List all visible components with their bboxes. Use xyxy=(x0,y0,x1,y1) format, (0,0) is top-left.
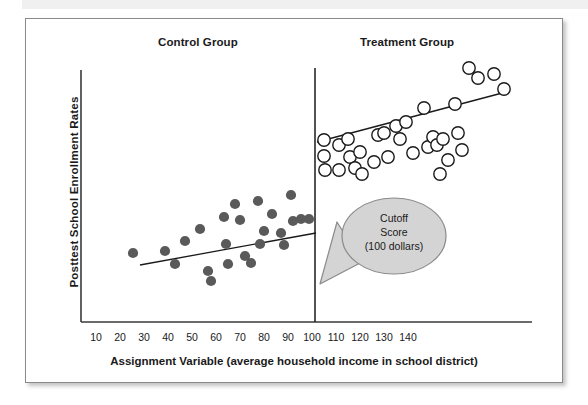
page-top-band xyxy=(22,0,588,9)
x-tick-label: 50 xyxy=(179,331,205,343)
x-tick-label: 130 xyxy=(371,331,397,343)
x-tick-label: 120 xyxy=(347,331,373,343)
cutoff-callout-text: Cutoff Score (100 dollars) xyxy=(348,211,440,253)
callout-line-1: Cutoff xyxy=(348,211,440,225)
x-tick-label: 70 xyxy=(227,331,253,343)
x-tick-label: 90 xyxy=(275,331,301,343)
figure-root: Control Group Treatment Group Posttest S… xyxy=(0,0,588,405)
y-axis-label: Posttest School Enrollment Rates xyxy=(68,82,80,302)
x-tick-label: 40 xyxy=(155,331,181,343)
figure-frame xyxy=(25,18,563,383)
x-tick-label: 60 xyxy=(203,331,229,343)
control-group-title: Control Group xyxy=(158,36,238,48)
x-tick-label: 100 xyxy=(299,331,325,343)
x-axis-label: Assignment Variable (average household i… xyxy=(0,355,588,367)
x-tick-label: 110 xyxy=(323,331,349,343)
x-tick-label: 20 xyxy=(107,331,133,343)
x-tick-label: 30 xyxy=(131,331,157,343)
treatment-group-title: Treatment Group xyxy=(360,36,454,48)
x-tick-label: 10 xyxy=(83,331,109,343)
x-tick-label: 140 xyxy=(395,331,421,343)
callout-line-2: Score xyxy=(348,225,440,239)
x-tick-label: 80 xyxy=(251,331,277,343)
callout-line-3: (100 dollars) xyxy=(348,239,440,253)
